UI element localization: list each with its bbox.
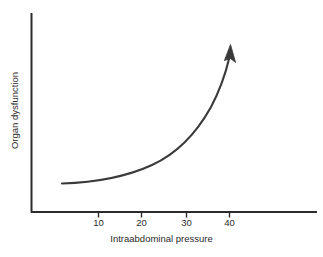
y-axis-title-wrapper: Organ dysfunction (8, 40, 22, 180)
x-tick-label-20: 20 (127, 217, 157, 228)
x-axis-title: Intraabdominal pressure (0, 233, 323, 244)
x-tick-label-30: 30 (172, 217, 202, 228)
x-tick-label-10: 10 (84, 217, 114, 228)
data-curve (62, 57, 230, 184)
curve-arrowhead-icon (224, 45, 235, 63)
y-axis-title: Organ dysfunction (10, 71, 21, 148)
x-tick-label-40: 40 (215, 217, 245, 228)
chart-figure: 10 20 30 40 Intraabdominal pressure Orga… (0, 0, 323, 257)
plot-area (0, 0, 323, 257)
